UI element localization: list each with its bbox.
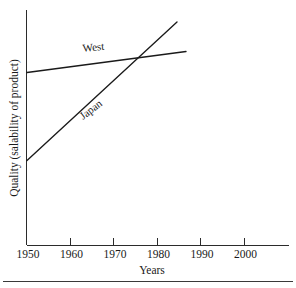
x-tick-label-1960: 1960: [60, 248, 83, 260]
series-label-west: West: [82, 40, 105, 54]
y-axis-title: Quality (salability of product): [8, 59, 21, 197]
x-tick-label-1970: 1970: [104, 248, 127, 260]
chart-figure: 1950 1960 1970 1980 1990 2000 Years Qual…: [0, 0, 296, 288]
x-tick-label-1950: 1950: [17, 248, 40, 260]
x-tick-label-1990: 1990: [191, 248, 214, 260]
x-tick-label-2000: 2000: [234, 248, 257, 260]
line-chart: 1950 1960 1970 1980 1990 2000 Years Qual…: [0, 0, 296, 288]
x-tick-label-1980: 1980: [147, 248, 170, 260]
x-axis-title: Years: [139, 264, 165, 276]
